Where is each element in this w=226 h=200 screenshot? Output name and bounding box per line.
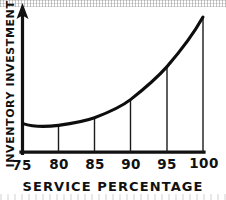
x-tick-label-95: 95 [157, 156, 177, 172]
data-curve-series [23, 17, 203, 126]
x-tick-labels: 75 80 85 90 95 100 [12, 155, 218, 173]
scan-artifact-bottom-band [0, 194, 226, 200]
x-tick-label-85: 85 [85, 156, 105, 172]
x-tick-label-80: 80 [49, 156, 69, 172]
hand-drawn-chart-figure: 75 80 85 90 95 100 SERVICE PERCENTAGE IN… [0, 0, 226, 200]
y-axis [17, 3, 29, 154]
chart-canvas: 75 80 85 90 95 100 SERVICE PERCENTAGE IN… [0, 0, 226, 200]
curve-inventory-investment [23, 17, 203, 126]
gridlines-vertical [59, 18, 204, 152]
y-axis-title: INVENTORY INVESTMENT [4, 1, 17, 168]
x-tick-label-90: 90 [121, 156, 141, 172]
x-tick-label-100: 100 [189, 155, 218, 171]
x-axis-title: SERVICE PERCENTAGE [22, 179, 203, 194]
